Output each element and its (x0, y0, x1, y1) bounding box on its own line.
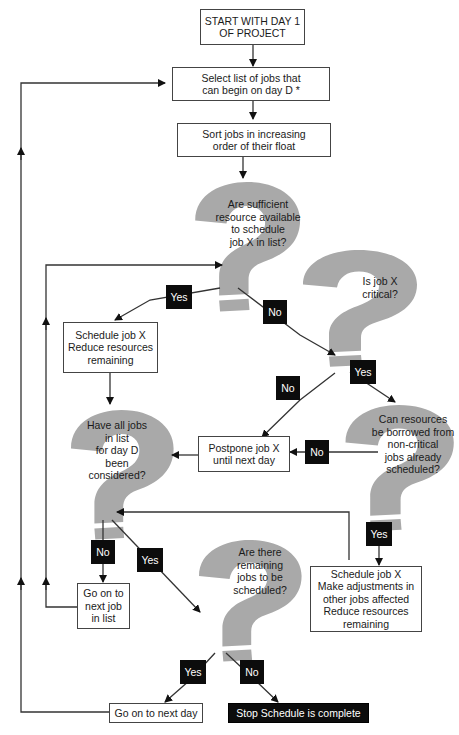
q-remaining-line-1: Are there (225, 546, 295, 559)
q-considered-line-5: considered? (72, 469, 162, 482)
q-remaining-line-3: jobs to be (225, 571, 295, 584)
question-all-considered: Have all jobs in list for day D been con… (72, 419, 162, 482)
next-day-box: Go on to next day (109, 703, 203, 723)
edge-label-remaining-no: No (240, 660, 264, 684)
postpone-line-2: until next day (213, 454, 275, 467)
q-critical-line-2: critical? (345, 288, 415, 301)
flowchart-canvas: START WITH DAY 1 OF PROJECT Select list … (0, 0, 459, 735)
next-job-line-2: next job (85, 600, 122, 613)
q-borrow-line-2: be borrowed from (365, 426, 459, 439)
q-borrow-line-3: non-critical (365, 438, 459, 451)
start-line-1: START WITH DAY 1 (205, 15, 300, 28)
schedule-adjust-box: Schedule job X Make adjustments in other… (310, 566, 422, 632)
next-job-line-1: Go on to (83, 587, 123, 600)
next-job-box: Go on to next job in list (77, 583, 130, 629)
q-considered-line-3: for day D (72, 444, 162, 457)
sort-line-2: order of their float (213, 140, 295, 153)
edge-label-borrow-yes: Yes (366, 522, 392, 546)
question-shape-critical (303, 250, 417, 367)
select-jobs-box: Select list of jobs that can begin on da… (172, 67, 330, 101)
q-borrow-line-5: scheduled? (365, 463, 459, 476)
q-borrow-line-4: jobs already (365, 451, 459, 464)
q-remaining-line-2: remaining (225, 559, 295, 572)
postpone-box: Postpone job X until next day (198, 436, 290, 472)
edge-label-critical-yes: Yes (350, 360, 376, 384)
start-box: START WITH DAY 1 OF PROJECT (200, 9, 305, 45)
schedule-reduce-line-3: remaining (87, 354, 133, 367)
next-job-line-3: in list (92, 612, 116, 625)
q-borrow-line-1: Can resources (365, 413, 459, 426)
select-line-1: Select list of jobs that (201, 72, 300, 85)
q-sufficient-line-4: job X in list? (203, 236, 313, 249)
q-sufficient-line-1: Are sufficient (203, 198, 313, 211)
sort-line-1: Sort jobs in increasing (202, 128, 305, 141)
edge-label-critical-no: No (276, 376, 300, 400)
schedule-reduce-box: Schedule job X Reduce resources remainin… (63, 322, 158, 373)
question-sufficient: Are sufficient resource available to sch… (203, 198, 313, 248)
q-sufficient-line-2: resource available (203, 211, 313, 224)
stop-line-1: Stop Schedule is complete (236, 707, 360, 720)
select-line-2: can begin on day D * (202, 84, 299, 97)
sort-jobs-box: Sort jobs in increasing order of their f… (177, 123, 331, 157)
q-considered-line-4: been (72, 457, 162, 470)
schedule-adjust-line-1: Schedule job X (331, 568, 402, 581)
schedule-reduce-line-1: Schedule job X (75, 329, 146, 342)
schedule-reduce-line-2: Reduce resources (68, 341, 153, 354)
stop-box: Stop Schedule is complete (228, 703, 369, 723)
edge-label-considered-yes: Yes (137, 548, 163, 572)
edge-label-borrow-no: No (305, 440, 329, 464)
q-considered-line-1: Have all jobs (72, 419, 162, 432)
q-considered-line-2: in list (72, 432, 162, 445)
schedule-adjust-line-3: other jobs affected (323, 593, 409, 606)
start-line-2: OF PROJECT (219, 27, 286, 40)
schedule-adjust-line-5: remaining (343, 618, 389, 631)
edge-label-considered-no: No (91, 540, 115, 564)
question-critical: Is job X critical? (345, 275, 415, 300)
q-sufficient-line-3: to schedule (203, 223, 313, 236)
next-day-line-1: Go on to next day (115, 707, 198, 720)
question-remaining: Are there remaining jobs to be scheduled… (225, 546, 295, 596)
edge-label-sufficient-yes: Yes (166, 285, 192, 309)
postpone-line-1: Postpone job X (208, 442, 279, 455)
edge-label-sufficient-no: No (263, 300, 287, 324)
schedule-adjust-line-2: Make adjustments in (318, 580, 414, 593)
schedule-adjust-line-4: Reduce resources (323, 605, 408, 618)
q-remaining-line-4: scheduled? (225, 584, 295, 597)
q-critical-line-1: Is job X (345, 275, 415, 288)
edge-label-remaining-yes: Yes (180, 660, 206, 684)
question-borrow: Can resources be borrowed from non-criti… (365, 413, 459, 476)
